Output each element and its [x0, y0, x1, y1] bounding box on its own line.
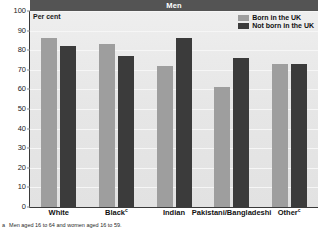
x-axis-category-label: Blackc	[105, 209, 128, 217]
y-axis-tick-label: 40	[18, 125, 26, 133]
chart-legend: Born in the UKNot born in the UK	[238, 14, 314, 29]
y-axis-tick-label: 50	[18, 105, 26, 113]
bar-born-in-uk	[214, 87, 230, 207]
category-footnote-marker: c	[125, 207, 128, 213]
gridline	[30, 31, 318, 32]
bar-born-in-uk	[272, 64, 288, 207]
bar-not-born-in-uk	[118, 56, 134, 207]
x-axis-category-labels: WhiteBlackcIndianPakistani/BangladeshiOt…	[30, 209, 318, 221]
bar-born-in-uk	[41, 38, 57, 207]
y-axis-tick-mark	[27, 50, 30, 51]
y-axis-tick-mark	[27, 128, 30, 129]
x-axis-category-label: Pakistani/Bangladeshi	[192, 209, 272, 217]
chart-title: Men	[166, 2, 182, 10]
y-axis-tick-label: 10	[18, 184, 26, 192]
legend-swatch-icon	[238, 15, 249, 21]
x-axis-category-label: White	[49, 209, 69, 217]
bar-not-born-in-uk	[233, 58, 249, 207]
y-axis-tick-mark	[27, 11, 30, 12]
footnote-marker: a	[2, 223, 5, 229]
y-axis-tick-label: 20	[18, 164, 26, 172]
y-axis-tick-mark	[27, 109, 30, 110]
legend-item: Not born in the UK	[238, 22, 314, 29]
y-axis-tick-mark	[27, 187, 30, 188]
x-axis-category-label: Indian	[163, 209, 185, 217]
gridline	[30, 11, 318, 12]
bar-born-in-uk	[157, 66, 173, 207]
legend-label: Born in the UK	[252, 14, 301, 21]
y-axis-tick-label: 70	[18, 66, 26, 74]
y-axis-tick-label: 80	[18, 46, 26, 54]
y-axis-tick-label: 90	[18, 27, 26, 35]
legend-swatch-icon	[238, 23, 249, 29]
bar-not-born-in-uk	[60, 46, 76, 207]
y-axis-tick-label: 0	[22, 203, 26, 211]
y-axis-tick-mark	[27, 207, 30, 208]
y-axis-tick-label: 100	[13, 7, 26, 15]
y-axis: 1009080706050403020100	[0, 11, 30, 207]
y-axis-tick-mark	[27, 167, 30, 168]
chart-title-band: Men	[30, 0, 318, 11]
y-axis-tick-mark	[27, 148, 30, 149]
legend-item: Born in the UK	[238, 14, 314, 21]
plot-area: Per cent	[30, 11, 318, 207]
legend-label: Not born in the UK	[252, 22, 314, 29]
bar-not-born-in-uk	[176, 38, 192, 207]
footnote: a Men aged 16 to 64 and women aged 16 to…	[2, 223, 122, 229]
footnote-text: Men aged 16 to 64 and women aged 16 to 5…	[9, 223, 122, 229]
y-axis-tick-mark	[27, 30, 30, 31]
y-axis-tick-mark	[27, 69, 30, 70]
y-axis-tick-label: 30	[18, 144, 26, 152]
x-axis-category-label: Otherc	[278, 209, 301, 217]
bar-born-in-uk	[99, 44, 115, 207]
bar-not-born-in-uk	[291, 64, 307, 207]
y-axis-title: Per cent	[33, 13, 61, 20]
category-footnote-marker: c	[298, 207, 301, 213]
y-axis-tick-label: 60	[18, 86, 26, 94]
y-axis-tick-mark	[27, 89, 30, 90]
